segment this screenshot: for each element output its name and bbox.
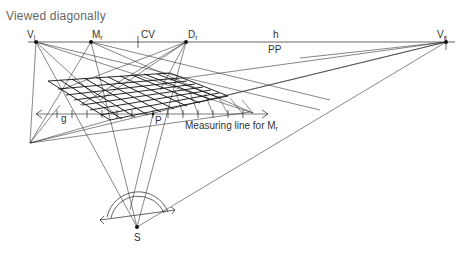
perspective-diagram: Vl Mr CV Dr Vr h PP P g S Measuring line… [0, 0, 469, 254]
label-vl: Vl [27, 29, 36, 41]
label-g: g [61, 113, 67, 124]
label-p: P [155, 115, 162, 126]
measuring-line-label: Measuring line for Mr [185, 120, 279, 132]
label-s: S [134, 232, 141, 243]
label-dr: Dr [188, 29, 198, 41]
label-cv: CV [141, 29, 155, 40]
point-markers [34, 40, 448, 229]
label-vr: Vr [437, 29, 447, 41]
label-horizon: h [273, 29, 279, 40]
label-picture-plane: PP [268, 44, 282, 55]
viewing-angle-arc [100, 192, 175, 224]
label-mr: Mr [92, 29, 103, 41]
construction-lines [30, 42, 446, 227]
